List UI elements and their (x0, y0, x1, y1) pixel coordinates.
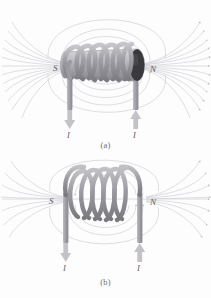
lead-wire-left-b (63, 193, 68, 243)
current-label-right-b: I (136, 263, 141, 273)
fan-right-2 (142, 31, 204, 64)
current-arrow-left-a (64, 110, 75, 129)
pole-label-north-a: N (149, 64, 157, 74)
current-label-right-a: I (132, 130, 137, 140)
current-label-left-a: I (66, 130, 71, 140)
fan-right-b1 (146, 161, 200, 197)
current-arrow-right-b (134, 243, 145, 262)
panel-b-caption: (b) (0, 277, 211, 287)
fan-left-b5 (2, 200, 65, 211)
current-arrow-left-b (60, 243, 71, 262)
fan-right-11 (142, 69, 190, 118)
coil-lead-joints-a (68, 62, 70, 78)
fan-left-b6 (4, 201, 65, 225)
fan-left-b7 (9, 202, 65, 237)
current-label-left-b: I (62, 263, 67, 273)
panel-b-bare-coil: S N I I (0, 155, 211, 295)
fan-left-2 (8, 31, 70, 64)
fan-left-4 (3, 48, 70, 65)
fan-left-3 (5, 40, 70, 65)
fan-left-9 (8, 68, 70, 101)
fan-left-b1 (11, 161, 65, 197)
fan-right-b7 (146, 202, 202, 237)
solenoid-body-a (60, 44, 144, 81)
current-arrow-right-a (130, 110, 141, 129)
fan-right-10 (142, 69, 200, 110)
fan-left-10 (12, 69, 70, 110)
pole-label-south-b: S (49, 196, 54, 206)
pole-label-south-a: S (53, 63, 58, 73)
pole-label-north-b: N (149, 197, 157, 207)
fan-right-4 (142, 48, 209, 65)
panel-a-caption: (a) (0, 140, 211, 150)
lead-wire-right-b (137, 193, 142, 243)
fan-right-1 (142, 22, 200, 64)
joint-left (68, 62, 70, 78)
solenoid-figure: S N I I (a) (0, 0, 211, 298)
panel-a-solenoid-with-core: S N I I (0, 0, 211, 140)
fan-left-7 (3, 67, 70, 84)
fan-right-3 (142, 40, 207, 65)
